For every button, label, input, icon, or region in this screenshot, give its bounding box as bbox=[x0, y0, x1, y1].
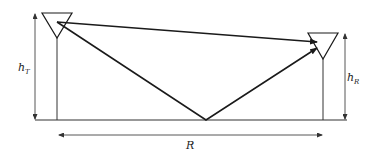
reflected-ray bbox=[57, 22, 317, 120]
transmitter-height-label: hT bbox=[18, 61, 31, 76]
receiver-antenna-icon bbox=[308, 33, 338, 120]
distance-label: R bbox=[185, 139, 194, 152]
receiver-height-label: hR bbox=[347, 71, 360, 86]
diagram-canvas: hT hR R bbox=[0, 0, 379, 158]
two-ray-diagram: hT hR R bbox=[0, 0, 379, 158]
direct-ray bbox=[57, 22, 317, 42]
